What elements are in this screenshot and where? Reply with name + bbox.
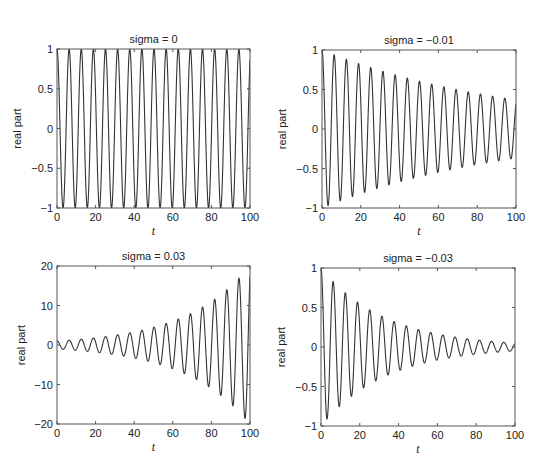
x-tick-label: 20 — [355, 211, 367, 223]
y-tick-label: −1 — [304, 420, 317, 432]
figure: sigma = 0 real part t 020406080100−1−0.5… — [0, 0, 546, 469]
y-tick-label: 1 — [47, 43, 53, 55]
x-axis-label: t — [417, 224, 421, 238]
x-tick-label: 0 — [54, 427, 60, 439]
y-tick-label: 0.5 — [302, 302, 317, 314]
x-tick-label: 100 — [506, 429, 524, 441]
subplot-sigma-minus-0.03: sigma = −0.03 real part t 020406080100−1… — [275, 252, 524, 456]
signal-curve — [57, 277, 250, 419]
x-tick-label: 60 — [432, 211, 444, 223]
x-axis-label: t — [416, 442, 420, 456]
x-tick-label: 100 — [241, 427, 259, 439]
axes-box — [57, 266, 250, 424]
y-tick-label: 0 — [311, 341, 317, 353]
x-tick-label: 20 — [89, 427, 101, 439]
y-tick-label: 0.5 — [303, 84, 318, 96]
x-axis-label: t — [152, 440, 156, 454]
signal-curve — [321, 268, 515, 419]
subplot-sigma-0: sigma = 0 real part t 020406080100−1−0.5… — [11, 33, 259, 238]
x-tick-label: 40 — [128, 427, 140, 439]
x-tick-label: 40 — [392, 429, 404, 441]
y-tick-label: 1 — [311, 262, 317, 274]
x-tick-label: 60 — [167, 211, 179, 223]
y-tick-label: 10 — [41, 300, 53, 312]
y-tick-label: 0 — [47, 339, 53, 351]
subplot-title: sigma = 0.03 — [122, 250, 185, 262]
signal-curve — [322, 50, 516, 206]
x-tick-label: 0 — [319, 211, 325, 223]
y-tick-label: −1 — [305, 202, 318, 214]
subplot-title: sigma = −0.03 — [383, 252, 453, 264]
y-tick-label: −0.5 — [295, 381, 317, 393]
x-tick-label: 60 — [167, 427, 179, 439]
y-axis-label: real part — [275, 327, 287, 367]
y-tick-label: −0.5 — [296, 163, 318, 175]
x-tick-label: 80 — [471, 211, 483, 223]
subplot-title: sigma = 0 — [130, 33, 178, 45]
y-tick-label: 0 — [312, 123, 318, 135]
subplot-sigma-minus-0.01: sigma = −0.01 real part t 020406080100−1… — [276, 34, 525, 238]
x-tick-label: 80 — [470, 429, 482, 441]
y-tick-label: 0 — [47, 123, 53, 135]
y-tick-label: −1 — [40, 202, 53, 214]
x-tick-label: 100 — [507, 211, 525, 223]
signal-curve — [57, 49, 250, 208]
y-axis-label: real part — [276, 109, 288, 149]
y-tick-label: 20 — [41, 260, 53, 272]
subplot-sigma-0.03: sigma = 0.03 real part t 020406080100−20… — [15, 250, 259, 454]
y-tick-label: −20 — [34, 418, 53, 430]
x-tick-label: 20 — [89, 211, 101, 223]
axes-box — [321, 268, 515, 426]
y-tick-label: −0.5 — [31, 162, 53, 174]
y-axis-label: real part — [15, 325, 27, 365]
x-tick-label: 0 — [318, 429, 324, 441]
y-tick-label: 0.5 — [38, 83, 53, 95]
x-tick-label: 40 — [393, 211, 405, 223]
x-tick-label: 0 — [54, 211, 60, 223]
y-axis-label: real part — [11, 108, 23, 148]
x-tick-label: 40 — [128, 211, 140, 223]
x-tick-label: 80 — [205, 211, 217, 223]
x-axis-label: t — [152, 224, 156, 238]
y-tick-label: 1 — [312, 44, 318, 56]
x-tick-label: 100 — [241, 211, 259, 223]
x-tick-label: 60 — [431, 429, 443, 441]
x-tick-label: 20 — [354, 429, 366, 441]
x-tick-label: 80 — [205, 427, 217, 439]
subplot-title: sigma = −0.01 — [384, 34, 454, 46]
y-tick-label: −10 — [34, 379, 53, 391]
